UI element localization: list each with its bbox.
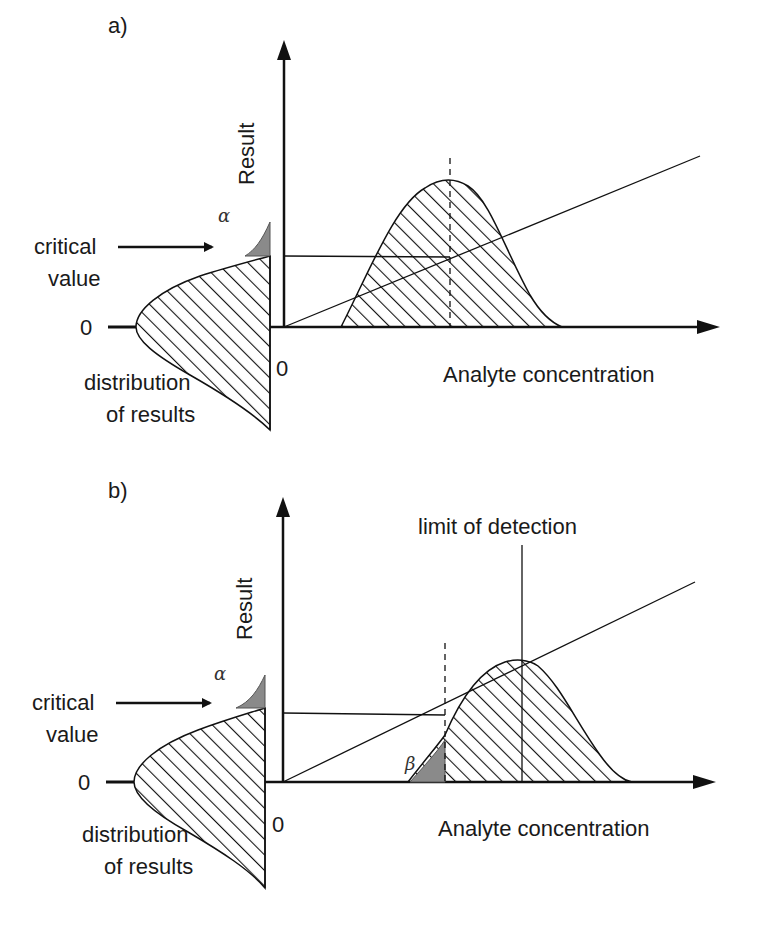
x-axis-label-b: Analyte concentration <box>438 816 650 841</box>
distribution-label-b-line2: of results <box>104 854 193 879</box>
panel-b: b) α critical value 0 distribution of re… <box>32 478 716 888</box>
alpha-symbol-a: α <box>218 205 230 226</box>
beta-symbol-b: β <box>404 753 415 774</box>
distribution-label-b-line1: distribution <box>82 822 188 847</box>
left-zero-label-b: 0 <box>78 770 90 795</box>
y-axis-arrow-b <box>276 497 290 517</box>
x-axis-label-a: Analyte concentration <box>443 362 655 387</box>
result-distribution-a <box>341 180 562 327</box>
y-axis-label-a: Result <box>234 123 259 185</box>
critical-value-label-b-line2: value <box>46 722 99 747</box>
panel-a: a) α critical value 0 distribution of re… <box>34 13 720 430</box>
distribution-label-a-line2: of results <box>106 402 195 427</box>
y-axis-label-b: Result <box>232 578 257 640</box>
critical-value-label-a-line1: critical <box>34 234 96 259</box>
x-axis-arrow-b <box>693 775 716 789</box>
x-axis-arrow-a <box>697 320 720 334</box>
panel-b-label: b) <box>108 478 128 503</box>
alpha-region-b <box>236 675 265 708</box>
origin-label-b: 0 <box>272 812 284 837</box>
left-distribution-a <box>108 222 270 430</box>
critical-value-label-b-line1: critical <box>32 690 94 715</box>
y-axis-arrow-a <box>277 40 291 60</box>
left-zero-label-a: 0 <box>80 315 92 340</box>
critical-value-label-a-line2: value <box>48 266 101 291</box>
alpha-region-a <box>245 222 270 256</box>
alpha-symbol-b: α <box>214 663 226 684</box>
origin-label-a: 0 <box>276 356 288 381</box>
distribution-label-a-line1: distribution <box>84 370 190 395</box>
detection-limit-diagram: a) α critical value 0 distribution of re… <box>0 0 757 941</box>
lod-label-b: limit of detection <box>418 514 577 539</box>
panel-a-label: a) <box>108 13 128 38</box>
